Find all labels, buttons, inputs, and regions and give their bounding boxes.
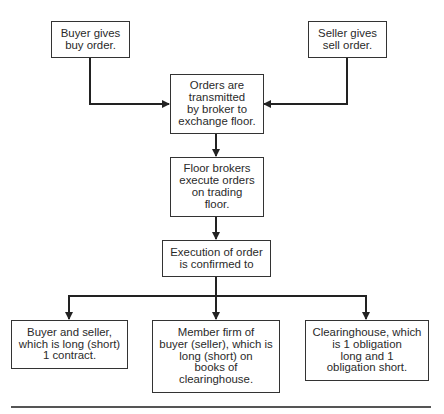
node-member: Member firm of buyer (seller), which is … bbox=[152, 320, 280, 393]
bottom-rule bbox=[11, 406, 431, 408]
edge-confirm-trunk bbox=[69, 276, 366, 296]
node-seller: Seller gives sell order. bbox=[308, 21, 387, 58]
edge-buyer-to-transmit bbox=[90, 57, 169, 104]
node-execute: Floor brokers execute orders on trading … bbox=[170, 157, 264, 217]
node-clearing: Clearinghouse, which is 1 obligation lon… bbox=[305, 320, 429, 381]
edge-seller-to-transmit bbox=[264, 57, 347, 104]
node-buyer: Buyer gives buy order. bbox=[51, 21, 130, 58]
node-confirm: Execution of order is confirmed to bbox=[162, 240, 271, 277]
node-transmit: Orders are transmitted by broker to exch… bbox=[170, 74, 264, 134]
node-parties: Buyer and seller, which is long (short) … bbox=[11, 320, 128, 369]
